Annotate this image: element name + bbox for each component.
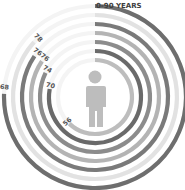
bar-value-label: 68 [0,83,10,92]
person-icon [86,71,106,128]
bar-value-label: 70 [45,81,56,91]
radial-life-expectancy-chart: 68787676747056 0-90 YEARS [0,0,185,190]
chart-title: 0-90 YEARS [96,2,142,10]
